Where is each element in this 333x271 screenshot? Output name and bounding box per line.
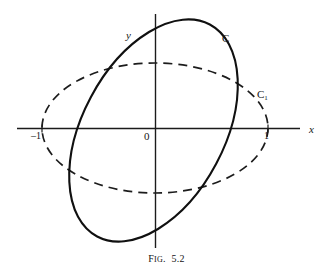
figure-plot-area — [0, 0, 333, 271]
curve-c1-label: C1 — [257, 89, 268, 100]
x-tick-label-one: 1 — [264, 131, 269, 141]
caption-number: 5.2 — [171, 253, 184, 264]
figure-container: y x 0 –1 1 C C1 FIG. 5.2 — [0, 0, 333, 271]
caption-prefix-rest: IG — [154, 255, 163, 264]
y-axis-label: y — [126, 30, 131, 41]
x-tick-label-negative-one: –1 — [31, 131, 41, 141]
x-axis-label: x — [309, 124, 314, 135]
figure-caption: FIG. 5.2 — [0, 253, 333, 264]
curve-c1-label-subscript: 1 — [264, 94, 268, 102]
origin-label: 0 — [144, 131, 150, 142]
curve-c-solid-closed-curve — [34, 0, 272, 270]
curve-c-label: C — [222, 33, 229, 44]
